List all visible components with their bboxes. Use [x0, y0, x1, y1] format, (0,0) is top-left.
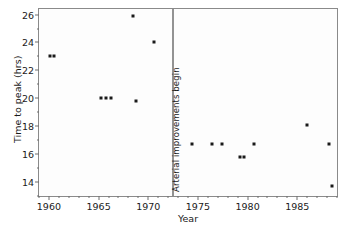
- x-axis-tick-label: 1965: [87, 201, 111, 212]
- x-axis-tick: [98, 196, 99, 200]
- y-axis-tick-label: 20: [22, 93, 34, 104]
- x-axis-title: Year: [38, 213, 338, 224]
- y-axis-tick-label: 16: [22, 149, 34, 160]
- data-point: [331, 185, 334, 188]
- data-point: [306, 123, 309, 126]
- y-axis-minor-tick: [37, 112, 39, 113]
- x-axis-minor-tick: [307, 196, 308, 198]
- y-axis-tick: [35, 42, 39, 43]
- y-axis-tick: [35, 182, 39, 183]
- data-point: [135, 100, 138, 103]
- y-axis-title-text: Time to peak (hrs): [12, 56, 23, 143]
- x-axis-tick-label: 1985: [285, 201, 309, 212]
- y-axis-minor-tick: [37, 168, 39, 169]
- scatter-chart-figure: Arterial improvements begin 196019651970…: [0, 0, 344, 229]
- y-axis-tick: [35, 98, 39, 99]
- y-axis-title: Time to peak (hrs): [2, 8, 14, 197]
- y-axis-tick-label: 24: [22, 37, 34, 48]
- data-point: [238, 155, 241, 158]
- x-axis-minor-tick: [178, 196, 179, 198]
- x-axis-minor-tick: [277, 196, 278, 198]
- data-point: [210, 143, 213, 146]
- data-point: [252, 143, 255, 146]
- y-axis-tick-label: 18: [22, 121, 34, 132]
- data-point: [52, 55, 55, 58]
- x-axis-tick: [297, 196, 298, 200]
- y-axis-tick: [35, 154, 39, 155]
- x-axis-tick-label: 1975: [186, 201, 210, 212]
- x-axis-minor-tick: [88, 196, 89, 198]
- x-axis-tick-label: 1960: [37, 201, 61, 212]
- y-axis-tick: [35, 14, 39, 15]
- data-point: [220, 143, 223, 146]
- x-axis-minor-tick: [327, 196, 328, 198]
- y-axis-minor-tick: [37, 84, 39, 85]
- x-axis-minor-tick: [257, 196, 258, 198]
- x-axis-minor-tick: [168, 196, 169, 198]
- data-point: [104, 97, 107, 100]
- x-axis-minor-tick: [317, 196, 318, 198]
- x-axis-minor-tick: [237, 196, 238, 198]
- x-axis-tick: [247, 196, 248, 200]
- data-point: [48, 55, 51, 58]
- y-axis-minor-tick: [37, 196, 39, 197]
- x-axis-minor-tick: [287, 196, 288, 198]
- y-axis-tick: [35, 126, 39, 127]
- y-axis-tick: [35, 70, 39, 71]
- plot-area: Arterial improvements begin 196019651970…: [38, 8, 338, 197]
- x-axis-minor-tick: [128, 196, 129, 198]
- x-axis-tick: [48, 196, 49, 200]
- x-axis-minor-tick: [78, 196, 79, 198]
- data-point: [153, 41, 156, 44]
- data-point: [132, 14, 135, 17]
- data-point: [328, 143, 331, 146]
- y-axis-tick-label: 22: [22, 65, 34, 76]
- y-axis-minor-tick: [37, 140, 39, 141]
- data-point: [109, 97, 112, 100]
- x-axis-minor-tick: [337, 196, 338, 198]
- plot-inner: Arterial improvements begin: [39, 9, 337, 196]
- x-axis-tick-label: 1980: [236, 201, 260, 212]
- x-axis-minor-tick: [207, 196, 208, 198]
- x-axis-minor-tick: [138, 196, 139, 198]
- x-axis-minor-tick: [227, 196, 228, 198]
- x-axis-minor-tick: [217, 196, 218, 198]
- x-axis-minor-tick: [267, 196, 268, 198]
- data-point: [99, 97, 102, 100]
- x-axis-minor-tick: [108, 196, 109, 198]
- x-axis-minor-tick: [58, 196, 59, 198]
- y-axis-minor-tick: [37, 28, 39, 29]
- y-axis-tick-label: 14: [22, 177, 34, 188]
- x-axis-minor-tick: [158, 196, 159, 198]
- x-axis-tick: [197, 196, 198, 200]
- y-axis-tick-label: 26: [22, 9, 34, 20]
- x-axis-tick: [148, 196, 149, 200]
- data-point: [242, 155, 245, 158]
- x-axis-minor-tick: [118, 196, 119, 198]
- annotation-label: Arterial improvements begin: [171, 67, 181, 192]
- x-axis-minor-tick: [68, 196, 69, 198]
- x-axis-tick-label: 1970: [136, 201, 160, 212]
- y-axis-minor-tick: [37, 56, 39, 57]
- data-point: [190, 143, 193, 146]
- x-axis-minor-tick: [188, 196, 189, 198]
